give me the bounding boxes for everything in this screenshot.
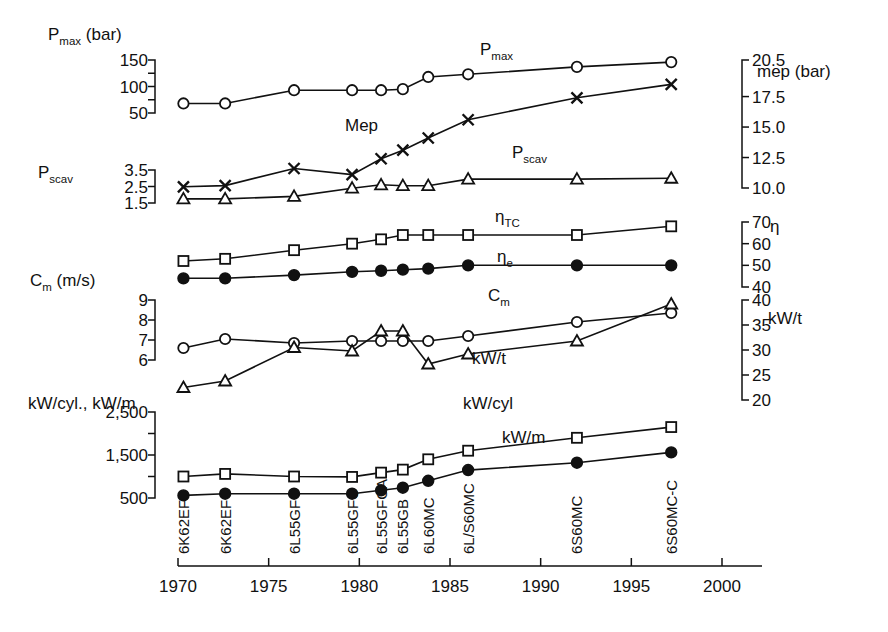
marker-etae-1: [220, 273, 231, 284]
marker-Pscav-9: [665, 172, 677, 183]
x-tick-label-1980: 1980: [340, 577, 378, 596]
marker-kW/cyl-1: [220, 469, 230, 479]
marker-etaTC-8: [572, 230, 582, 240]
tick-label-kw-2500: 2,500: [105, 403, 148, 422]
tick-label-kwt-40: 40: [752, 291, 771, 310]
category-label-1: 6K62EF: [217, 500, 234, 554]
tick-label-pmax-150: 150: [120, 51, 148, 70]
tick-label-eta-50: 50: [752, 256, 771, 275]
marker-Pscav-4: [375, 179, 387, 190]
marker-kW/m-6: [423, 475, 434, 486]
series-Mep: [178, 79, 677, 192]
annotation-etatc: ηTC: [495, 207, 520, 229]
annotation-kwm: kW/m: [502, 428, 545, 447]
x-tick-label-1995: 1995: [612, 577, 650, 596]
annotation-mep: Mep: [345, 116, 378, 135]
tick-label-kwt-35: 35: [752, 316, 771, 335]
marker-Cm-1: [220, 334, 230, 344]
series-line-kW/cyl: [183, 427, 671, 477]
series-Pmax: [178, 57, 676, 109]
tick-label-pscav-1.5: 1.5: [124, 194, 148, 213]
marker-Cm-5: [398, 336, 408, 346]
axis-bracket-eta: [742, 222, 749, 287]
tick-label-cm-6: 6: [139, 351, 148, 370]
category-label-9: 6S60MC-C: [663, 480, 680, 554]
annotation-cm: Cm: [488, 286, 510, 308]
axis-bracket-cm: [148, 300, 155, 360]
marker-etaTC-4: [376, 234, 386, 244]
tick-label-kwt-20: 20: [752, 391, 771, 410]
series-kW/cyl: [178, 422, 676, 482]
marker-kW/cyl-9: [666, 422, 676, 432]
marker-Pmax-1: [220, 98, 230, 108]
marker-Mep-4: [376, 153, 387, 164]
category-label-3: 6L55GFC: [344, 489, 361, 554]
marker-Pmax-4: [376, 85, 386, 95]
tick-label-pmax-100: 100: [120, 78, 148, 97]
tick-label-mep-12.5: 12.5: [752, 149, 785, 168]
eta-axis-title: η: [770, 217, 779, 236]
marker-kW/cyl-0: [178, 472, 188, 482]
axis-tick-labels: 1501005020.517.515.012.510.03.52.51.5706…: [105, 51, 785, 508]
annotation-pscav: Pscav: [512, 143, 547, 165]
pscav-axis-title: Pscav: [38, 163, 73, 185]
marker-kW/cyl-4: [376, 468, 386, 478]
annotation-kwcyl: kW/cyl: [463, 394, 513, 413]
marker-kW/cyl-2: [289, 472, 299, 482]
tick-label-mep-17.5: 17.5: [752, 88, 785, 107]
axis-bracket-mep: [742, 60, 749, 188]
category-label-6: 6L60MC: [420, 497, 437, 554]
marker-etaTC-9: [666, 221, 676, 231]
engine-development-chart: Pmax (bar) Pscav Cm (m/s) kW/cyl., kW/m …: [0, 0, 888, 632]
x-tick-label-1975: 1975: [250, 577, 288, 596]
annotation-kwt: kW/t: [472, 349, 506, 368]
marker-kW/m-2: [289, 488, 300, 499]
tick-label-pmax-50: 50: [129, 104, 148, 123]
marker-etae-0: [178, 273, 189, 284]
annotation-pmax: Pmax: [480, 40, 513, 62]
tick-label-cm-8: 8: [139, 311, 148, 330]
marker-kW/t-8: [571, 335, 583, 346]
tick-label-kw-500: 500: [120, 489, 148, 508]
marker-Pmax-3: [347, 85, 357, 95]
marker-kW/cyl-5: [398, 465, 408, 475]
marker-kW/t-1: [219, 375, 231, 386]
marker-kW/m-5: [397, 482, 408, 493]
marker-etae-5: [397, 264, 408, 275]
kwt-axis-title: kW/t: [768, 309, 802, 328]
marker-kW/m-1: [220, 488, 231, 499]
marker-Mep-6: [423, 133, 434, 144]
category-label-7: 6L/S60MC: [460, 483, 477, 554]
marker-etaTC-3: [347, 239, 357, 249]
series-etae: [178, 260, 677, 284]
series-etaTC: [178, 221, 676, 266]
marker-Cm-7: [463, 331, 473, 341]
series-Pscav: [177, 172, 677, 203]
category-label-0: 6K62EF: [175, 500, 192, 554]
chart-canvas: Pmax (bar) Pscav Cm (m/s) kW/cyl., kW/m …: [0, 0, 888, 632]
marker-Pmax-2: [289, 85, 299, 95]
category-label-5: 6L55GB: [394, 499, 411, 554]
marker-Pmax-6: [423, 72, 433, 82]
category-label-2: 6L55GF: [286, 500, 303, 554]
marker-kW/cyl-3: [347, 472, 357, 482]
marker-etaTC-7: [463, 230, 473, 240]
category-label-4: 6L55GFCA: [373, 479, 390, 554]
marker-kW/m-9: [666, 447, 677, 458]
tick-label-mep-15: 15.0: [752, 118, 785, 137]
marker-etaTC-6: [423, 230, 433, 240]
tick-label-mep-20.5: 20.5: [752, 51, 785, 70]
marker-kW/m-7: [463, 465, 474, 476]
marker-kW/cyl-8: [572, 433, 582, 443]
marker-Pmax-5: [398, 84, 408, 94]
marker-etaTC-5: [398, 230, 408, 240]
marker-kW/cyl-6: [423, 454, 433, 464]
marker-Cm-4: [376, 336, 386, 346]
marker-etae-8: [572, 260, 583, 271]
marker-Cm-6: [423, 336, 433, 346]
x-tick-label-1985: 1985: [431, 577, 469, 596]
tick-label-kwt-30: 30: [752, 341, 771, 360]
marker-etaTC-2: [289, 245, 299, 255]
marker-etae-2: [289, 270, 300, 281]
axis-brackets: [148, 60, 749, 498]
